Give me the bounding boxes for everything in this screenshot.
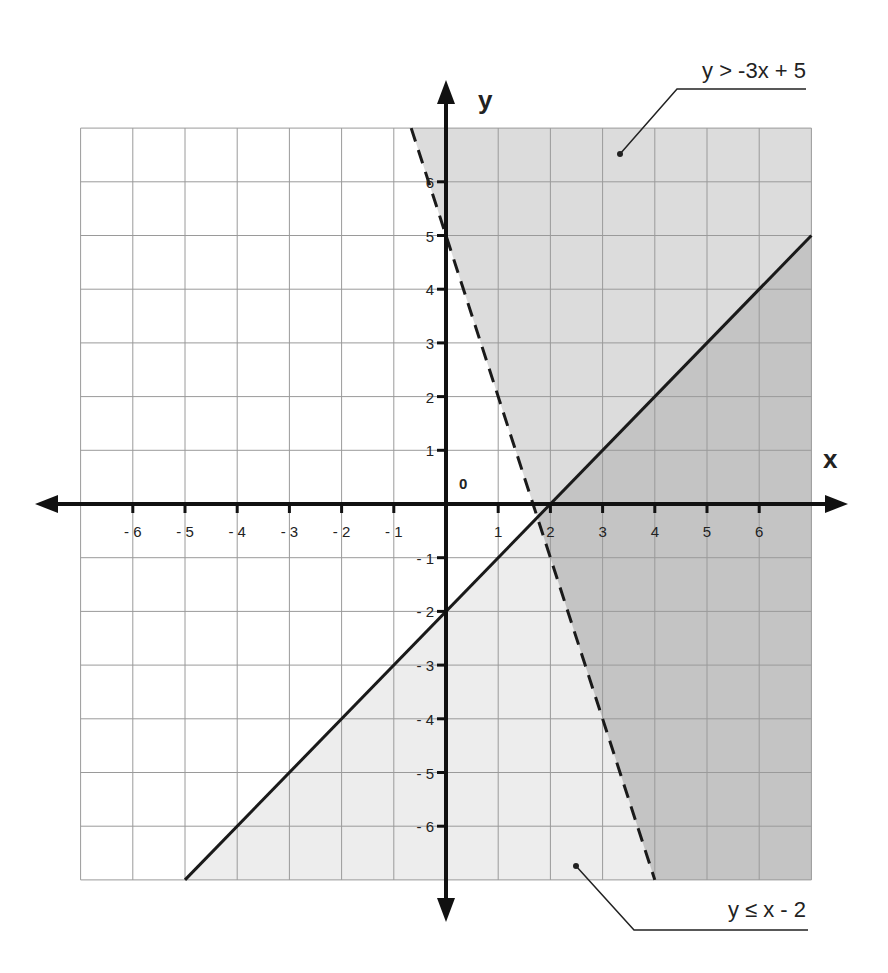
y-tick-label: - 4: [416, 711, 434, 728]
y-tick-label: - 1: [416, 550, 434, 567]
x-axis-left-arrow-icon: [35, 495, 58, 513]
ineq2-label: y ≤ x - 2: [728, 897, 806, 922]
y-tick-label: 2: [426, 389, 434, 406]
x-axis-right-arrow-icon: [825, 495, 848, 513]
x-tick-label: 5: [703, 523, 711, 540]
x-tick-label: - 5: [176, 523, 194, 540]
x-tick-label: - 3: [281, 523, 299, 540]
y-tick-label: 1: [426, 442, 434, 459]
inequality-graph: - 6- 5- 4- 3- 2- 1123456- 6- 5- 4- 3- 2-…: [0, 0, 888, 973]
y-tick-label: - 5: [416, 765, 434, 782]
y-axis-down-arrow-icon: [437, 898, 455, 922]
x-tick-label: - 2: [333, 523, 351, 540]
x-tick-label: 2: [546, 523, 554, 540]
y-tick-label: - 6: [416, 818, 434, 835]
x-tick-label: - 1: [385, 523, 403, 540]
y-tick-label: 3: [426, 335, 434, 352]
y-tick-label: - 2: [416, 603, 434, 620]
x-tick-label: 4: [651, 523, 659, 540]
y-tick-label: 6: [426, 174, 434, 191]
x-tick-label: - 4: [228, 523, 246, 540]
ineq1-label: y > -3x + 5: [702, 58, 806, 83]
x-tick-label: 3: [598, 523, 606, 540]
x-tick-label: - 6: [124, 523, 142, 540]
y-axis-label: y: [478, 85, 493, 115]
x-axis-label: x: [823, 444, 838, 474]
origin-label: 0: [459, 475, 467, 492]
x-tick-label: 6: [755, 523, 763, 540]
y-tick-label: - 3: [416, 657, 434, 674]
x-tick-label: 1: [494, 523, 502, 540]
y-axis-up-arrow-icon: [437, 80, 455, 104]
y-tick-label: 4: [426, 281, 434, 298]
y-tick-label: 5: [426, 228, 434, 245]
